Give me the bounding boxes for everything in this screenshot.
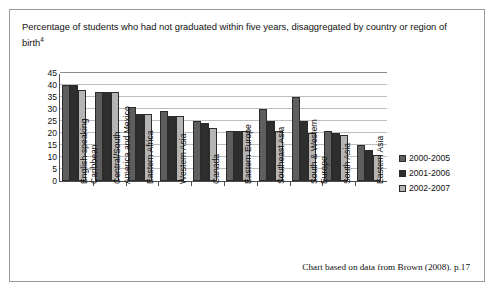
plot-area	[59, 74, 387, 182]
y-axis-tick-label: 35	[31, 93, 57, 102]
y-axis-tick-label: 0	[31, 177, 57, 186]
bar	[357, 145, 365, 181]
bar	[226, 131, 234, 181]
legend-item[interactable]: 2002-2007	[399, 182, 483, 195]
y-axis-tick-label: 10	[31, 153, 57, 162]
legend-swatch-icon	[399, 185, 406, 192]
x-axis-category-label: Western Asia	[178, 134, 188, 184]
x-axis-category-label-line: Europe	[319, 119, 329, 184]
x-axis-category-label-line: Southeast Asia	[276, 127, 286, 184]
x-axis-category-label-line: America and Mexico	[122, 106, 132, 184]
bar	[234, 131, 242, 181]
x-axis-category-label-line: Eastern Africa	[145, 131, 155, 185]
bar	[365, 150, 373, 181]
y-axis-tick-label: 25	[31, 117, 57, 126]
x-axis-category-label-line: Eastern Asia	[375, 136, 385, 184]
x-axis-category-label-line: English-speaking	[79, 119, 89, 184]
x-axis-category-label: Canada	[211, 154, 221, 184]
bar	[70, 85, 78, 181]
bar	[259, 109, 267, 181]
x-axis-category-label-line: South Asia	[342, 143, 352, 184]
chart-panel: Percentage of students who had not gradu…	[9, 9, 485, 282]
x-axis-category-label: Southeast Asia	[276, 127, 286, 184]
x-axis-category-label: Central/SouthAmerica and Mexico	[112, 106, 132, 184]
bar	[201, 123, 209, 181]
x-axis-category-label: Eastern Africa	[145, 131, 155, 185]
y-axis-tick-label: 40	[31, 81, 57, 90]
bar	[300, 121, 308, 181]
x-axis-category-label-line: Canada	[211, 154, 221, 184]
x-axis-category-label-line: Western Asia	[178, 134, 188, 184]
bar	[103, 92, 111, 181]
x-axis-category-label: Eastern Asia	[375, 136, 385, 184]
bar	[332, 133, 340, 181]
y-axis-tick-label: 5	[31, 165, 57, 174]
y-axis-labels: 051015202530354045	[30, 67, 57, 189]
chart-source-caption: Chart based on data from Brown (2008). p…	[302, 262, 470, 272]
legend-item[interactable]: 2000-2005	[399, 152, 483, 165]
bar	[136, 114, 144, 181]
chart-title-footnote-marker: 4	[40, 36, 44, 43]
legend-label: 2002-2007	[409, 184, 450, 193]
bar	[168, 116, 176, 181]
bar	[292, 97, 300, 181]
x-axis-category-label: Eastern Europe	[243, 124, 253, 184]
y-axis-tick-label: 20	[31, 129, 57, 138]
x-axis-category-label-line: South & Western	[309, 119, 319, 184]
legend-label: 2001-2006	[409, 169, 450, 178]
chart-title: Percentage of students who had not gradu…	[22, 20, 462, 49]
y-axis-tick-label: 45	[31, 69, 57, 78]
bar	[62, 85, 70, 181]
gridline	[60, 72, 387, 73]
legend-label: 2000-2005	[409, 154, 450, 163]
x-axis-category-label-line: Central/South	[112, 131, 122, 184]
y-axis-tick-label: 15	[31, 141, 57, 150]
bar	[267, 121, 275, 181]
chart-legend: 2000-20052001-20062002-2007	[399, 152, 483, 197]
x-axis-category-label: South & WesternEurope	[309, 119, 329, 184]
chart-title-text: Percentage of students who had not gradu…	[22, 21, 447, 48]
legend-swatch-icon	[399, 155, 406, 162]
x-axis-category-label-line: Caribbean	[89, 119, 99, 184]
x-axis-category-label: English-speakingCaribbean	[79, 119, 99, 184]
x-axis-category-label-line: Eastern Europe	[243, 124, 253, 184]
x-axis-category-label: South Asia	[342, 143, 352, 184]
legend-swatch-icon	[399, 170, 406, 177]
legend-item[interactable]: 2001-2006	[399, 167, 483, 180]
bar	[160, 111, 168, 181]
bar	[193, 121, 201, 181]
y-axis-tick-label: 30	[31, 105, 57, 114]
